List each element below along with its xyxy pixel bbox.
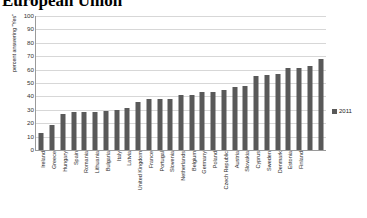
bar[interactable] bbox=[39, 133, 44, 150]
bar[interactable] bbox=[50, 125, 55, 150]
bar[interactable] bbox=[114, 110, 119, 150]
x-label-slot: Lithuania bbox=[90, 151, 101, 218]
bar-slot bbox=[251, 16, 262, 150]
bar-slot bbox=[229, 16, 240, 150]
bar-slot bbox=[100, 16, 111, 150]
bar[interactable] bbox=[168, 99, 173, 150]
bar-slot bbox=[315, 16, 326, 150]
x-label-slot: Czech Republic bbox=[219, 151, 230, 218]
bar[interactable] bbox=[254, 76, 259, 150]
bar[interactable] bbox=[243, 86, 248, 150]
y-tick-label: 10 bbox=[14, 134, 34, 140]
y-tick-label: 30 bbox=[14, 107, 34, 113]
x-label-slot: Estonia bbox=[283, 151, 294, 218]
bar[interactable] bbox=[286, 68, 291, 150]
bar[interactable] bbox=[221, 90, 226, 150]
legend-swatch-icon bbox=[332, 109, 337, 114]
y-tick-label: 0 bbox=[14, 147, 34, 153]
x-label-slot: Bulgaria bbox=[100, 151, 111, 218]
x-label-slot: Hungary bbox=[57, 151, 68, 218]
bar-slot bbox=[165, 16, 176, 150]
bar[interactable] bbox=[178, 95, 183, 150]
bar-slot bbox=[197, 16, 208, 150]
bar[interactable] bbox=[103, 111, 108, 150]
y-tick-label: 60 bbox=[14, 67, 34, 73]
bar[interactable] bbox=[200, 92, 205, 150]
bar[interactable] bbox=[307, 66, 312, 150]
x-label-slot: Poland bbox=[208, 151, 219, 218]
bar-slot bbox=[79, 16, 90, 150]
x-label-slot: Slovakia bbox=[240, 151, 251, 218]
bar-slot bbox=[68, 16, 79, 150]
bar[interactable] bbox=[157, 99, 162, 150]
chart-legend: 2011 bbox=[332, 108, 352, 114]
bar-slot bbox=[133, 16, 144, 150]
bar-series-2011 bbox=[36, 16, 326, 150]
y-tick-label: 40 bbox=[14, 93, 34, 99]
bar-slot bbox=[219, 16, 230, 150]
x-label-slot: Greece bbox=[47, 151, 58, 218]
bar-slot bbox=[262, 16, 273, 150]
bar[interactable] bbox=[211, 92, 216, 150]
bar[interactable] bbox=[71, 112, 76, 150]
bar[interactable] bbox=[125, 108, 130, 150]
y-axis-tick-labels: 1009080706050403020100 bbox=[14, 0, 34, 218]
x-label-slot: Belgium bbox=[186, 151, 197, 218]
bar-slot bbox=[186, 16, 197, 150]
x-label-slot: France bbox=[143, 151, 154, 218]
x-label-slot: Ireland bbox=[36, 151, 47, 218]
bar-slot bbox=[143, 16, 154, 150]
x-label-slot: Spain bbox=[68, 151, 79, 218]
x-tick-label: Finland bbox=[299, 151, 305, 169]
chart-figure: European Union percent answering "Yes" 1… bbox=[0, 0, 367, 218]
bar-slot bbox=[47, 16, 58, 150]
x-label-slot: Austria bbox=[229, 151, 240, 218]
x-label-slot: Germany bbox=[197, 151, 208, 218]
x-label-slot: Latvia bbox=[122, 151, 133, 218]
bar-slot bbox=[154, 16, 165, 150]
x-label-slot: Finland bbox=[294, 151, 305, 218]
bar[interactable] bbox=[136, 102, 141, 150]
bar-slot bbox=[122, 16, 133, 150]
legend-label: 2011 bbox=[339, 108, 352, 114]
bar[interactable] bbox=[318, 59, 323, 150]
x-axis-category-labels: IrelandGreeceHungarySpainRomaniaLithuani… bbox=[36, 151, 326, 218]
bar-slot bbox=[208, 16, 219, 150]
y-tick-label: 80 bbox=[14, 40, 34, 46]
x-label-slot: Cyprus bbox=[251, 151, 262, 218]
x-label-slot: Denmark bbox=[272, 151, 283, 218]
bar-slot bbox=[272, 16, 283, 150]
x-label-slot: Italy bbox=[111, 151, 122, 218]
bar[interactable] bbox=[82, 112, 87, 150]
bar-slot bbox=[283, 16, 294, 150]
y-tick-label: 70 bbox=[14, 53, 34, 59]
bar-slot bbox=[294, 16, 305, 150]
bar-slot bbox=[240, 16, 251, 150]
y-tick-label: 20 bbox=[14, 120, 34, 126]
y-tick-label: 100 bbox=[14, 13, 34, 19]
bar-slot bbox=[111, 16, 122, 150]
plot-area bbox=[36, 16, 326, 150]
bar-slot bbox=[176, 16, 187, 150]
bar-slot bbox=[90, 16, 101, 150]
x-label-slot: Netherlands bbox=[176, 151, 187, 218]
bar[interactable] bbox=[297, 68, 302, 150]
bar[interactable] bbox=[93, 112, 98, 150]
x-label-slot: Portugal bbox=[154, 151, 165, 218]
bar-slot bbox=[36, 16, 47, 150]
x-label-slot: Slovenia bbox=[165, 151, 176, 218]
bar-slot bbox=[305, 16, 316, 150]
bar[interactable] bbox=[275, 74, 280, 150]
bar[interactable] bbox=[232, 87, 237, 150]
bar-slot bbox=[57, 16, 68, 150]
bar[interactable] bbox=[189, 95, 194, 150]
x-label-slot: United Kingdom bbox=[133, 151, 144, 218]
bar[interactable] bbox=[264, 75, 269, 150]
y-tick-label: 90 bbox=[14, 26, 34, 32]
y-tick-label: 50 bbox=[14, 80, 34, 86]
bar[interactable] bbox=[60, 114, 65, 150]
bar[interactable] bbox=[146, 99, 151, 150]
x-label-slot: Romania bbox=[79, 151, 90, 218]
x-label-slot: Sweden bbox=[262, 151, 273, 218]
